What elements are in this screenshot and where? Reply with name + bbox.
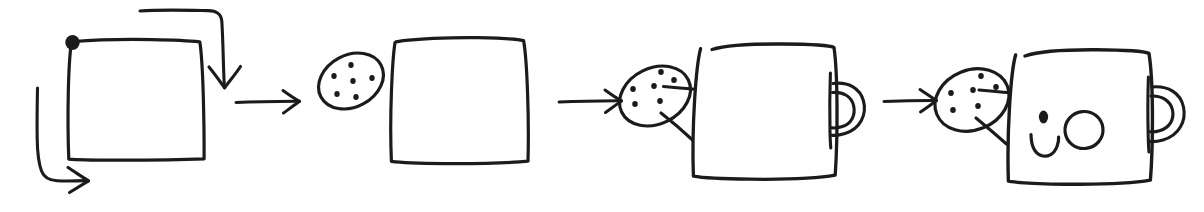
cookie-step2 <box>309 42 393 120</box>
drawing-tutorial-canvas: How to draw a cookie mug <box>0 0 1204 212</box>
cookie-chips-step4 <box>948 73 999 113</box>
direction-arrow-left-icon <box>37 88 88 193</box>
mug-body-outline-step3 <box>693 44 837 179</box>
step-2-group <box>309 38 529 164</box>
step-4-group <box>926 50 1185 184</box>
step-1-group <box>37 10 240 192</box>
cookie-arm-step4 <box>976 90 1010 144</box>
cookie-step3 <box>609 55 700 138</box>
step-arrow-3-to-4-icon <box>884 90 937 113</box>
step-3-group <box>609 44 864 179</box>
direction-arrow-top-icon <box>140 10 241 88</box>
face-group <box>1031 110 1105 157</box>
face-eye-icon <box>1039 111 1048 124</box>
mug-body-outline-step1 <box>68 39 204 160</box>
cookie-chips-step2 <box>331 62 374 100</box>
mug-body-outline-step4 <box>1008 50 1152 184</box>
face-smile-icon <box>1031 135 1059 157</box>
mug-body-outline-step2 <box>391 38 529 164</box>
step-arrow-1-to-2-icon <box>236 91 300 114</box>
cookie-step4 <box>926 58 1019 142</box>
step-arrow-2-to-3-icon <box>559 90 622 113</box>
face-cheek-icon <box>1063 110 1105 151</box>
